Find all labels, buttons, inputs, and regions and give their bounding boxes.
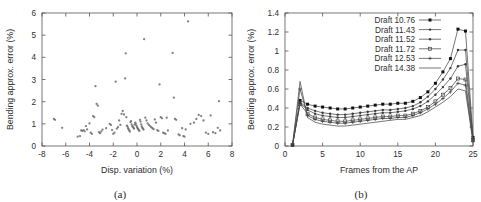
legend-label: Draft 11.43 bbox=[375, 26, 415, 35]
scatter-point bbox=[219, 129, 221, 131]
y-tick-label: 1 bbox=[31, 120, 36, 129]
data-marker bbox=[306, 103, 309, 106]
scatter-point bbox=[195, 118, 197, 120]
scatter-point bbox=[189, 123, 191, 125]
scatter-point bbox=[198, 114, 200, 116]
x-tick-label: 8 bbox=[230, 150, 235, 159]
data-marker bbox=[336, 107, 339, 110]
scatter-point bbox=[123, 113, 125, 115]
data-marker bbox=[404, 110, 406, 112]
scatter-point bbox=[217, 127, 219, 129]
data-marker bbox=[427, 95, 429, 97]
panel-a-caption: (a) bbox=[0, 188, 240, 200]
data-marker bbox=[419, 96, 422, 99]
scatter-point bbox=[185, 128, 187, 130]
scatter-point bbox=[158, 83, 160, 85]
data-marker bbox=[351, 113, 353, 115]
scatter-point bbox=[154, 118, 156, 120]
line-plot-b: 051015202500.20.40.60.811.21.4Frames fro… bbox=[241, 0, 481, 175]
scatter-point bbox=[145, 119, 147, 121]
panel-b: 051015202500.20.40.60.811.21.4Frames fro… bbox=[241, 0, 481, 202]
x-tick-label: -6 bbox=[62, 150, 70, 159]
legend: Draft 10.76Draft 11.43Draft 11.52Draft 1… bbox=[374, 16, 441, 73]
data-marker bbox=[419, 105, 421, 107]
x-tick-label: 2 bbox=[158, 150, 163, 159]
scatter-point bbox=[91, 133, 93, 135]
data-marker bbox=[442, 86, 444, 88]
scatter-point bbox=[193, 122, 195, 124]
scatter-point bbox=[187, 20, 189, 22]
x-tick-label: 20 bbox=[431, 150, 441, 159]
data-marker bbox=[464, 30, 467, 33]
y-axis-title: Bending approx. error (%) bbox=[246, 29, 256, 130]
scatter-point bbox=[164, 133, 166, 135]
y-tick-label: 0.8 bbox=[268, 66, 280, 75]
data-marker bbox=[412, 105, 414, 107]
data-marker bbox=[449, 77, 451, 79]
y-tick-label: 1.4 bbox=[268, 9, 280, 18]
scatter-point bbox=[79, 135, 81, 137]
data-marker bbox=[456, 28, 459, 31]
scatter-point bbox=[205, 132, 207, 134]
data-marker bbox=[351, 107, 354, 110]
data-marker bbox=[329, 115, 331, 117]
scatter-plot-a: -8-6-4-2024680123456Disp. variation (%)B… bbox=[0, 0, 240, 175]
data-marker bbox=[464, 49, 466, 51]
x-tick-label: 5 bbox=[320, 150, 325, 159]
y-tick-label: 1.2 bbox=[268, 28, 280, 37]
data-marker bbox=[426, 90, 429, 93]
scatter-point bbox=[101, 128, 103, 130]
scatter-point bbox=[105, 127, 107, 129]
data-marker bbox=[434, 94, 436, 96]
data-marker bbox=[464, 63, 466, 65]
scatter-point bbox=[200, 115, 202, 117]
scatter-point bbox=[218, 100, 220, 102]
scatter-point bbox=[183, 136, 185, 138]
y-tick-label: 3 bbox=[31, 76, 36, 85]
scatter-point bbox=[124, 77, 126, 79]
x-axis-title: Disp. variation (%) bbox=[101, 165, 173, 175]
y-tick-label: 6 bbox=[31, 9, 36, 18]
data-marker bbox=[321, 106, 324, 109]
scatter-point bbox=[125, 52, 127, 54]
data-marker bbox=[382, 112, 384, 114]
data-marker bbox=[411, 100, 414, 103]
scatter-point bbox=[129, 130, 131, 132]
scatter-point bbox=[202, 119, 204, 121]
data-marker bbox=[336, 116, 338, 118]
data-marker bbox=[396, 102, 399, 105]
scatter-point bbox=[166, 116, 168, 118]
scatter-point bbox=[54, 119, 56, 121]
scatter-point bbox=[173, 97, 175, 99]
scatter-point bbox=[209, 114, 211, 116]
data-marker bbox=[351, 115, 353, 117]
panel-b-caption: (b) bbox=[241, 188, 481, 200]
scatter-point bbox=[97, 105, 99, 107]
y-tick-label: 0.4 bbox=[268, 104, 280, 113]
scatter-point bbox=[152, 128, 154, 130]
data-marker bbox=[441, 70, 444, 73]
data-marker bbox=[434, 82, 437, 85]
scatter-point bbox=[122, 110, 124, 112]
x-tick-label: 6 bbox=[206, 150, 211, 159]
scatter-point bbox=[142, 128, 144, 130]
scatter-point bbox=[94, 85, 96, 87]
x-tick-label: -2 bbox=[110, 150, 118, 159]
data-marker bbox=[367, 111, 369, 113]
x-tick-label: -8 bbox=[38, 150, 46, 159]
data-marker bbox=[389, 112, 391, 114]
scatter-point bbox=[125, 116, 127, 118]
data-marker bbox=[419, 101, 421, 103]
scatter-point bbox=[155, 122, 157, 124]
data-marker bbox=[449, 57, 452, 60]
scatter-point bbox=[117, 126, 119, 128]
data-marker bbox=[321, 114, 323, 116]
panel-a: -8-6-4-2024680123456Disp. variation (%)B… bbox=[0, 0, 240, 202]
data-marker bbox=[412, 108, 414, 110]
scatter-point bbox=[113, 132, 115, 134]
data-marker bbox=[374, 110, 376, 112]
x-tick-label: 0 bbox=[283, 150, 288, 159]
data-marker bbox=[404, 107, 406, 109]
y-tick-label: 1 bbox=[274, 47, 279, 56]
data-marker bbox=[434, 88, 436, 90]
